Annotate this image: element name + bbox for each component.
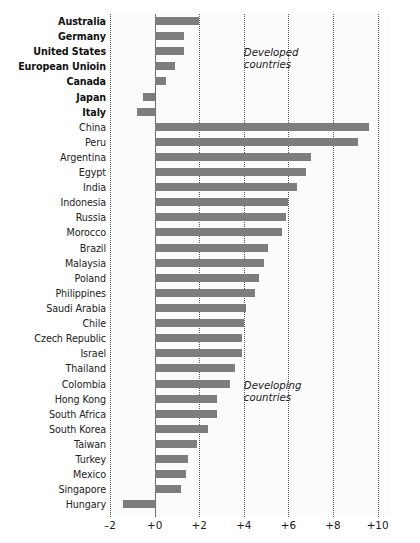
category-label: India (0, 180, 106, 195)
category-label: United States (0, 44, 106, 59)
bar-row (110, 271, 391, 286)
bar-row (110, 165, 391, 180)
bar (155, 47, 184, 55)
category-label: Brazil (0, 241, 106, 256)
x-tick-label: +4 (236, 519, 251, 531)
bar (155, 153, 311, 161)
bar-row (110, 331, 391, 346)
bar-row (110, 361, 391, 376)
bar-row (110, 105, 391, 120)
bar (155, 138, 358, 146)
bar (155, 228, 282, 236)
bar (155, 425, 209, 433)
category-label: Malaysia (0, 256, 106, 271)
bar (155, 198, 289, 206)
bar (155, 364, 235, 372)
bar (155, 470, 186, 478)
bar-row (110, 482, 391, 497)
category-label: Germany (0, 29, 106, 44)
category-label: South Korea (0, 422, 106, 437)
bar (155, 440, 197, 448)
bar-row (110, 74, 391, 89)
category-label: Chile (0, 316, 106, 331)
bar-row (110, 407, 391, 422)
x-tick-label: +2 (192, 519, 207, 531)
x-axis: –2+0+2+4+6+8+10 (110, 517, 391, 537)
category-label: Poland (0, 271, 106, 286)
bar (155, 32, 184, 40)
bar-row (110, 241, 391, 256)
category-label: Japan (0, 90, 106, 105)
bar (155, 334, 242, 342)
bar (155, 259, 264, 267)
bar (155, 380, 231, 388)
bar (155, 183, 298, 191)
category-label: Russia (0, 210, 106, 225)
bar-row (110, 437, 391, 452)
bar-row (110, 210, 391, 225)
bar (155, 77, 166, 85)
category-label: Singapore (0, 482, 106, 497)
bar-row (110, 150, 391, 165)
category-label: Australia (0, 14, 106, 29)
category-label: Philippines (0, 286, 106, 301)
bar-row (110, 316, 391, 331)
bar-row (110, 497, 391, 512)
category-label: Colombia (0, 377, 106, 392)
bar-row (110, 286, 391, 301)
category-label: European Unioin (0, 59, 106, 74)
bar (155, 304, 246, 312)
bar (155, 62, 175, 70)
bar (155, 455, 188, 463)
annotation-developed-countries: Developed countries (244, 47, 299, 71)
category-label: Indonesia (0, 195, 106, 210)
category-label: Mexico (0, 467, 106, 482)
bar-row (110, 29, 391, 44)
bar-row (110, 195, 391, 210)
category-label: Czech Republic (0, 331, 106, 346)
category-label: Thailand (0, 361, 106, 376)
bar-row (110, 467, 391, 482)
bar-row (110, 256, 391, 271)
x-tick-label: +10 (367, 519, 389, 531)
bar-row (110, 225, 391, 240)
category-label: Argentina (0, 150, 106, 165)
annotation-developing-countries: Developing countries (244, 380, 302, 404)
bar-chart: AustraliaGermanyUnited StatesEuropean Un… (0, 0, 420, 543)
category-label: Turkey (0, 452, 106, 467)
category-label: Taiwan (0, 437, 106, 452)
bar (155, 349, 242, 357)
bar (143, 93, 154, 101)
bar-row (110, 301, 391, 316)
category-label: Morocco (0, 225, 106, 240)
bar-row (110, 452, 391, 467)
bar (123, 500, 154, 508)
bar (155, 168, 307, 176)
category-label: Hong Kong (0, 392, 106, 407)
bar (155, 485, 182, 493)
bar-row (110, 346, 391, 361)
category-label: South Africa (0, 407, 106, 422)
category-label: Italy (0, 105, 106, 120)
bar (155, 123, 369, 131)
x-tick-label: –2 (104, 519, 116, 531)
bar (155, 213, 287, 221)
bar-row (110, 14, 391, 29)
x-tick-label: +8 (325, 519, 340, 531)
x-tick-label: +6 (281, 519, 296, 531)
bar (155, 244, 269, 252)
category-label: China (0, 120, 106, 135)
bar (155, 395, 217, 403)
category-label-column: AustraliaGermanyUnited StatesEuropean Un… (0, 14, 106, 517)
category-label: Peru (0, 135, 106, 150)
category-label: Hungary (0, 497, 106, 512)
bar (137, 108, 155, 116)
category-label: Egypt (0, 165, 106, 180)
bar (155, 274, 260, 282)
bar (155, 319, 244, 327)
category-label: Saudi Arabia (0, 301, 106, 316)
bar-row (110, 422, 391, 437)
x-tick-label: +0 (147, 519, 162, 531)
bar-row (110, 135, 391, 150)
category-label: Israel (0, 346, 106, 361)
